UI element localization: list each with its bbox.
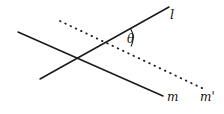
label-angle-theta: θ — [127, 33, 134, 45]
line-l-segment — [40, 7, 169, 79]
figure-canvas — [0, 0, 224, 114]
geometry-figure: l m m' θ — [0, 0, 224, 114]
line-m-segment — [18, 32, 163, 96]
label-line-m: m — [167, 91, 178, 103]
label-line-l: l — [170, 8, 174, 21]
label-line-m-prime: m' — [200, 91, 215, 103]
